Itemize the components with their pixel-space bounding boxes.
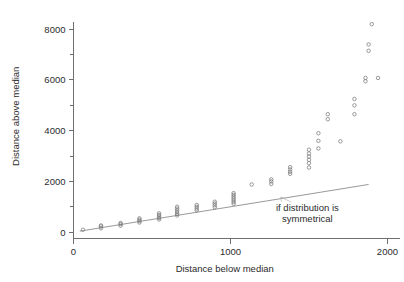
annotation-line-2: symmetrical <box>282 213 333 224</box>
data-point <box>288 165 292 169</box>
scatter-points <box>81 22 380 231</box>
data-point <box>307 166 311 170</box>
x-tick-label: 0 <box>71 246 76 257</box>
data-point <box>367 43 371 47</box>
symmetry-plot: 02000400060008000 010002000 if distribut… <box>0 0 404 282</box>
x-axis: 010002000 <box>71 239 400 258</box>
y-tick-label: 8000 <box>44 24 65 35</box>
y-axis-title: Distance above median <box>10 67 21 166</box>
data-point <box>250 183 254 187</box>
x-tick-label: 2000 <box>377 246 398 257</box>
y-tick-label: 4000 <box>44 125 65 136</box>
data-point <box>339 140 343 144</box>
data-point <box>376 76 380 80</box>
x-axis-tick-labels: 010002000 <box>71 246 398 257</box>
y-axis-ticks <box>69 29 74 232</box>
data-point <box>326 118 330 122</box>
y-tick-label: 6000 <box>44 74 65 85</box>
data-point <box>326 112 330 116</box>
data-point <box>353 104 357 108</box>
data-point <box>353 97 357 101</box>
data-point <box>307 148 311 152</box>
y-tick-label: 2000 <box>44 176 65 187</box>
x-axis-title: Distance below median <box>176 263 274 274</box>
data-point <box>317 147 321 151</box>
y-tick-label: 0 <box>60 227 65 238</box>
data-point <box>370 22 374 26</box>
data-point <box>317 131 321 135</box>
plot-canvas: 02000400060008000 010002000 if distribut… <box>0 0 404 282</box>
data-point <box>317 139 321 143</box>
data-point <box>353 112 357 116</box>
x-axis-ticks <box>74 239 388 244</box>
x-tick-label: 1000 <box>220 246 241 257</box>
y-axis-tick-labels: 02000400060008000 <box>44 24 65 238</box>
annotation-line-1: if distribution is <box>276 202 339 213</box>
data-point <box>367 49 371 53</box>
y-axis: 02000400060008000 <box>44 22 73 238</box>
